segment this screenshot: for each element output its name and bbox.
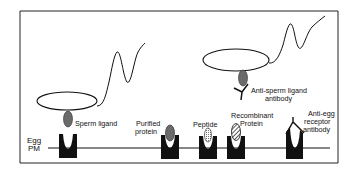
sperm-tail bbox=[97, 43, 145, 106]
anti-egg-receptor-antibody-label: antibody bbox=[303, 125, 331, 134]
sperm-ligand bbox=[239, 70, 248, 86]
anti-sperm-ligand-antibody-label: antibody bbox=[265, 94, 293, 103]
egg-receptor-antibody-bound bbox=[286, 127, 303, 159]
purified-protein bbox=[166, 125, 175, 141]
sperm-ligand bbox=[64, 111, 73, 127]
egg-pm-label: PM bbox=[28, 144, 40, 153]
sperm-egg-binding-diagram: Egg PM Sperm ligand Purified protein Pep… bbox=[0, 0, 355, 177]
egg-receptor-1 bbox=[59, 134, 77, 158]
anti-sperm-ligand-antibody bbox=[234, 84, 248, 100]
sperm-head-membrane bbox=[37, 92, 97, 110]
recombinant-protein-label: Protein bbox=[240, 119, 263, 128]
purified-protein-label: protein bbox=[135, 127, 157, 136]
peptide bbox=[205, 128, 212, 142]
sperm-ligand-label: Sperm ligand bbox=[75, 119, 117, 128]
sperm-tail bbox=[269, 16, 325, 63]
sperm-left bbox=[37, 43, 145, 127]
peptide-label: Peptide bbox=[193, 120, 217, 129]
sperm-head-membrane bbox=[203, 49, 269, 71]
